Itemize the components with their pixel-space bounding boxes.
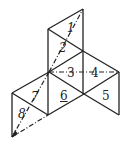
face-label-7: 7	[31, 91, 39, 103]
face-label-8: 8	[18, 108, 26, 120]
face-label-1: 1	[67, 22, 75, 34]
face-label-6: 6	[60, 90, 68, 102]
face-label-5: 5	[102, 90, 110, 102]
face-label-4: 4	[91, 67, 99, 79]
face-label-2: 2	[59, 42, 67, 54]
net-lines	[0, 0, 128, 145]
face-label-3: 3	[67, 67, 75, 79]
net-diagram: 1 2 3 4 5 6 7 8	[0, 0, 128, 145]
